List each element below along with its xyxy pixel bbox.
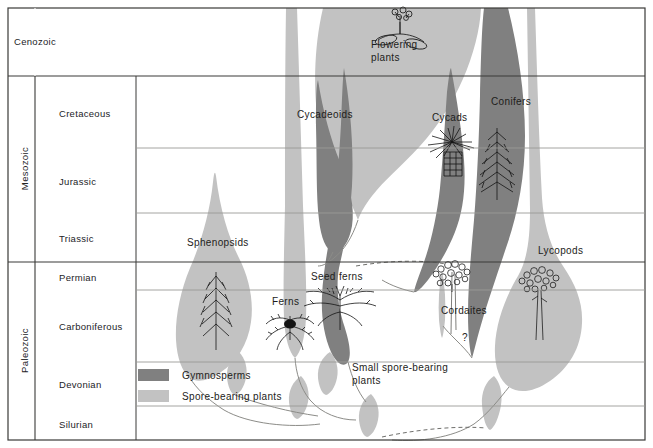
taxon-label-ferns: Ferns: [272, 296, 299, 309]
period-label-silurian: Silurian: [59, 419, 93, 431]
legend-item-gymnosperms: Gymnosperms: [138, 368, 282, 382]
taxon-label-cycadeoids: Cycadeoids: [297, 109, 353, 122]
period-label-cretaceous: Cretaceous: [59, 108, 111, 120]
period-label-jurassic: Jurassic: [59, 176, 96, 188]
taxon-label-flowering-plants-line1: Flowering: [371, 39, 418, 52]
taxon-label-cycads: Cycads: [432, 112, 467, 125]
taxon-label-lycopods: Lycopods: [538, 245, 583, 258]
legend: Gymnosperms Spore-bearing plants: [138, 368, 282, 403]
era-label-cenozoic: Cenozoic: [14, 36, 56, 48]
taxon-label-conifers: Conifers: [491, 96, 531, 109]
taxon-label-small-spore-bearing-plants-line2: plants: [352, 375, 381, 388]
legend-label-gymnosperms: Gymnosperms: [182, 370, 251, 381]
period-label-carboniferous: Carboniferous: [59, 321, 123, 333]
era-label-paleozoic: Paleozoic: [19, 321, 30, 381]
period-label-permian: Permian: [59, 272, 96, 284]
taxon-label-cordaites: Cordaites: [441, 305, 487, 318]
legend-swatch-gymnosperms: [138, 369, 169, 381]
uncertain-ancestor-question-mark: ?: [462, 332, 468, 345]
period-label-triassic: Triassic: [59, 233, 94, 245]
era-label-mesozoic: Mesozoic: [19, 141, 30, 197]
taxon-label-sphenopsids: Sphenopsids: [187, 237, 249, 250]
period-label-devonian: Devonian: [59, 379, 102, 391]
legend-label-spore-bearing-plants: Spore-bearing plants: [182, 391, 282, 402]
taxon-label-small-spore-bearing-plants-line1: Small spore-bearing: [352, 362, 448, 375]
legend-swatch-spore-bearing-plants: [138, 390, 169, 402]
taxon-label-flowering-plants-line2: plants: [371, 52, 400, 65]
evolution-of-plants-diagram: Cenozoic Mesozoic Paleozoic Cretaceous J…: [0, 0, 653, 448]
legend-item-spore-bearing-plants: Spore-bearing plants: [138, 389, 282, 403]
taxon-label-seed-ferns: Seed ferns: [311, 271, 363, 284]
